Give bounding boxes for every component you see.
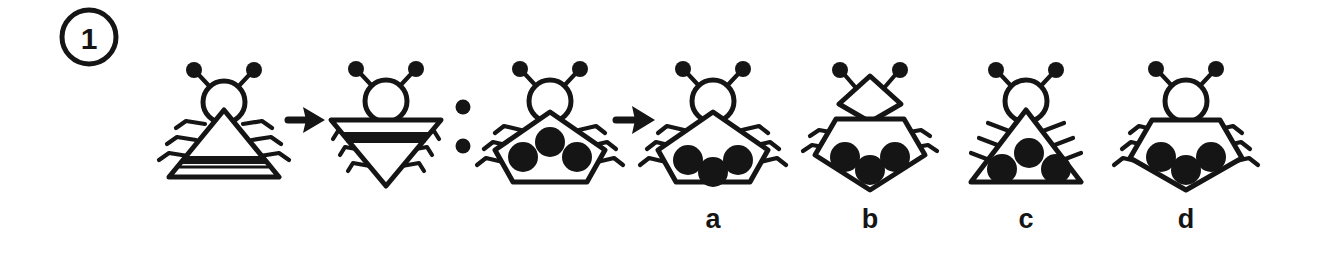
body-dot-bottom xyxy=(698,157,728,187)
body-dot-left xyxy=(987,154,1017,184)
leg-left-2 xyxy=(167,137,196,144)
figure-prompt-b xyxy=(331,61,441,186)
leg-right-1 xyxy=(1043,123,1064,131)
item-number-badge: 1 xyxy=(62,10,116,64)
option-c-figure[interactable]: c xyxy=(971,62,1081,234)
antenna-right-tip-icon xyxy=(892,62,908,78)
option-a-label: a xyxy=(705,204,721,234)
body-dot-right xyxy=(1041,154,1071,184)
leg-left-1 xyxy=(988,123,1009,131)
arrow-2 xyxy=(616,106,655,134)
option-b-label: b xyxy=(862,204,879,234)
antenna-left-stem xyxy=(844,74,856,88)
body-triangle-down xyxy=(331,120,441,186)
antenna-left-tip-icon xyxy=(675,61,691,77)
leg-right-2 xyxy=(252,137,281,144)
body-dot-top xyxy=(1014,138,1044,168)
head-circle xyxy=(365,80,407,122)
leg-left-1 xyxy=(176,121,205,128)
body-dot-bottom xyxy=(855,155,885,185)
puzzle-root: 1 xyxy=(0,0,1323,267)
leg-right-1 xyxy=(243,121,272,128)
body-dot-bottom xyxy=(1171,155,1201,185)
body-dot-left xyxy=(508,142,538,172)
body-dot-top xyxy=(535,127,565,157)
option-a-figure[interactable]: a xyxy=(640,61,786,234)
item-number-label: 1 xyxy=(81,22,98,55)
antenna-right-tip-icon xyxy=(408,61,424,77)
head-circle xyxy=(1165,80,1207,122)
antenna-right-tip-icon xyxy=(1208,61,1224,77)
antenna-right-tip-icon xyxy=(572,61,588,77)
antenna-left-tip-icon xyxy=(348,61,364,77)
antenna-left-tip-icon xyxy=(186,62,202,78)
arrow-1-head-icon xyxy=(303,107,325,133)
figure-prompt-a xyxy=(159,62,289,177)
antenna-right-tip-icon xyxy=(1048,62,1064,78)
head-diamond xyxy=(839,76,901,122)
antenna-left-tip-icon xyxy=(832,62,848,78)
arrow-2-head-icon xyxy=(632,106,655,134)
antenna-left-tip-icon xyxy=(1148,61,1164,77)
antenna-left-tip-icon xyxy=(512,61,528,77)
colon-dot-bottom xyxy=(456,139,471,154)
arrow-1 xyxy=(288,107,325,133)
option-c-label: c xyxy=(1018,204,1033,234)
figure-prompt-c xyxy=(477,61,623,182)
option-b-figure[interactable]: b xyxy=(803,62,937,234)
colon-separator xyxy=(456,100,471,154)
antenna-right-stem xyxy=(884,74,896,88)
body-stripe-band xyxy=(180,156,268,164)
option-d-label: d xyxy=(1178,204,1195,234)
body-stripe-band xyxy=(341,132,431,143)
antenna-left-tip-icon xyxy=(988,62,1004,78)
antenna-right-tip-icon xyxy=(246,62,262,78)
option-d-figure[interactable]: d xyxy=(1114,61,1258,234)
colon-dot-top xyxy=(456,100,471,115)
antenna-right-tip-icon xyxy=(735,61,751,77)
body-dot-right xyxy=(562,142,592,172)
